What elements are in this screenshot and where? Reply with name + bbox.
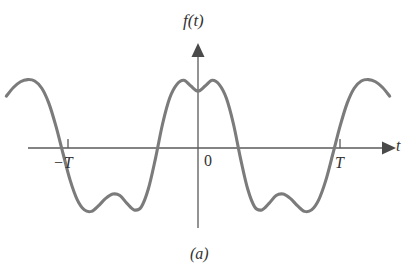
tick-group — [68, 139, 340, 148]
waveform-plot — [0, 0, 416, 278]
axes-group — [28, 43, 396, 228]
y-axis-label: f(t) — [183, 12, 204, 29]
tick-label-origin: 0 — [204, 153, 212, 169]
x-axis-arrow-icon — [382, 142, 396, 155]
tick-label-minus-T: −T — [53, 155, 73, 171]
figure-container: f(t) t −T 0 T (a) — [0, 0, 416, 278]
figure-caption: (a) — [190, 246, 209, 262]
x-axis-label: t — [396, 138, 400, 154]
y-axis-arrow-icon — [192, 43, 205, 57]
tick-label-plus-T: T — [335, 155, 344, 171]
